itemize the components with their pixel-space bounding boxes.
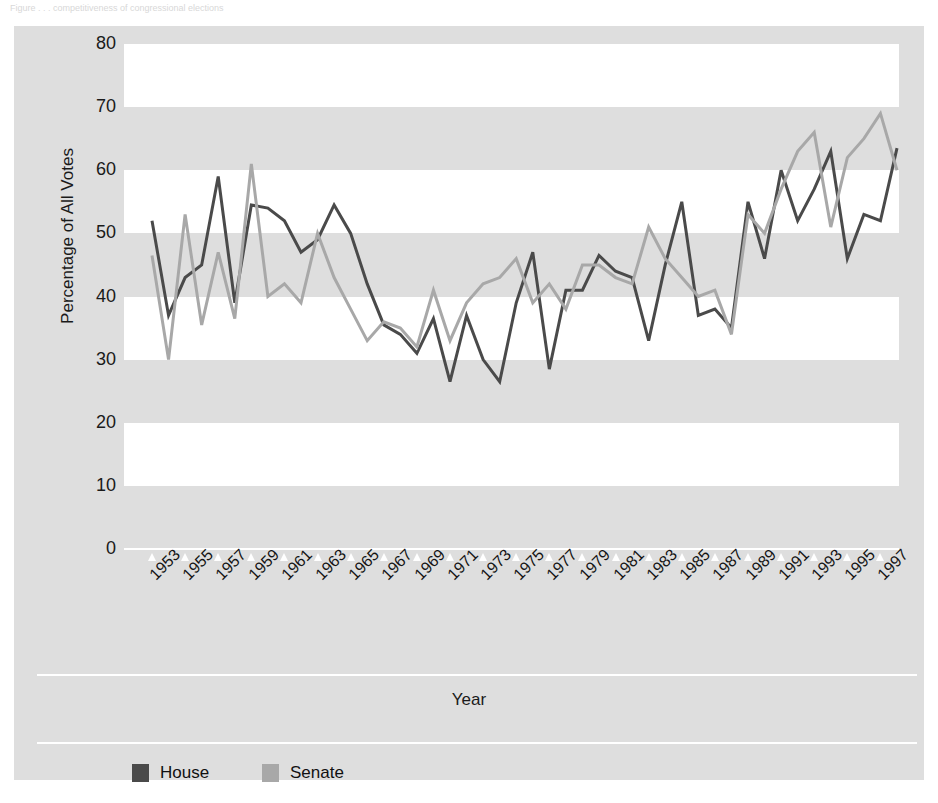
x-axis-tick-label: 1969 — [411, 546, 449, 584]
x-axis-tick-label: 1975 — [510, 546, 548, 584]
figure-root: Figure . . . competitiveness of congress… — [0, 0, 938, 803]
legend-item-house[interactable]: House — [132, 763, 209, 783]
x-axis-tick-label: 1973 — [477, 546, 515, 584]
x-axis-tick-label: 1981 — [610, 546, 648, 584]
legend-item-senate[interactable]: Senate — [262, 763, 344, 783]
x-axis-tick-label: 1955 — [179, 546, 217, 584]
x-axis-tick-label: 1989 — [742, 546, 780, 584]
x-axis-tick-label: 1963 — [312, 546, 350, 584]
x-axis-tick-label: 1965 — [345, 546, 383, 584]
chart-panel: 80706050403020100 Percentage of All Vote… — [14, 26, 924, 780]
x-axis-tick-label: 1991 — [775, 546, 813, 584]
x-axis-tick-label: 1977 — [543, 546, 581, 584]
x-axis-title: Year — [14, 690, 924, 710]
x-axis-tick-label: 1957 — [212, 546, 250, 584]
x-axis-tick-label: 1961 — [278, 546, 316, 584]
x-axis-tick-label: 1985 — [676, 546, 714, 584]
x-axis-tick-mark — [148, 553, 156, 561]
legend-label: Senate — [290, 763, 344, 783]
x-axis-tick-label: 1959 — [245, 546, 283, 584]
legend-label: House — [160, 763, 209, 783]
x-axis-tick-label: 1993 — [808, 546, 846, 584]
y-axis-tick-label: 10 — [64, 475, 116, 496]
x-axis-tick-label: 1983 — [643, 546, 681, 584]
y-axis-tick-labels: 80706050403020100 — [44, 44, 116, 549]
x-axis-tick-label: 1967 — [378, 546, 416, 584]
series-lines — [124, 44, 899, 549]
separator-line-bottom — [37, 742, 917, 744]
series-line-senate — [152, 113, 897, 359]
x-axis-tick-label: 1995 — [841, 546, 879, 584]
x-axis-tick-label: 1971 — [444, 546, 482, 584]
y-axis-tick-label: 20 — [64, 412, 116, 433]
legend-swatch-icon — [132, 764, 149, 782]
y-axis-title: Percentage of All Votes — [58, 106, 78, 366]
figure-caption-fragment: Figure . . . competitiveness of congress… — [0, 0, 938, 16]
plot-area — [124, 44, 899, 549]
x-axis-tick-label: 1997 — [874, 546, 912, 584]
x-axis-tick-label: 1987 — [709, 546, 747, 584]
y-axis-tick-label: 0 — [64, 538, 116, 559]
x-axis-tick-label: 1953 — [146, 546, 184, 584]
y-axis-tick-label: 80 — [64, 33, 116, 54]
legend-swatch-icon — [262, 764, 279, 782]
separator-line-top — [37, 674, 917, 676]
x-axis-tick-label: 1979 — [576, 546, 614, 584]
